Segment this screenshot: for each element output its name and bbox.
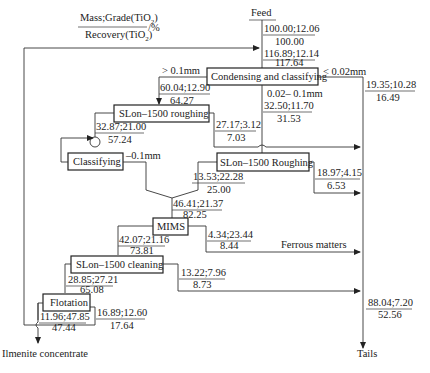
stream-mims-feed: 46.41;21.37 82.25 (172, 198, 223, 220)
stream-coarse: 60.04;12.90 64.27 (159, 82, 210, 106)
svg-text:13.22;7.96: 13.22;7.96 (181, 267, 226, 278)
slon-roughing-1-label: SLon–1500 roughing (119, 108, 209, 119)
tails-label: Tails (357, 348, 377, 359)
svg-text:100.00;12.06: 100.00;12.06 (264, 23, 319, 34)
svg-text:32.87;21.00: 32.87;21.00 (96, 121, 146, 132)
stream-rough2-tail: 18.97;4.15 6.53 (315, 167, 362, 191)
stream-flot-conc: 11.96;47.85 47.44 (39, 311, 90, 333)
svg-text:117.64: 117.64 (275, 57, 304, 68)
svg-text:25.00: 25.00 (207, 184, 231, 195)
stream-rough1-conc: 32.87;21.00 57.24 (95, 121, 146, 145)
svg-text:19.35;10.28: 19.35;10.28 (366, 79, 416, 90)
svg-text:47.44: 47.44 (52, 322, 76, 333)
svg-text:16.49: 16.49 (376, 92, 400, 103)
classifying-label: Classifying (73, 156, 122, 167)
stream-feed: 100.00;12.06 100.00 (263, 23, 319, 47)
stream-rough2-conc: 13.53;22.28 25.00 (192, 171, 245, 195)
svg-text:17.64: 17.64 (110, 320, 134, 331)
flowsheet-diagram: Mass;Grade(TiO2) Recovery(TiO2) /% Feed … (0, 0, 430, 373)
svg-text:65.08: 65.08 (80, 284, 104, 295)
svg-text:8.73: 8.73 (193, 279, 211, 290)
stream-flot-tail: 16.89;12.60 17.64 (96, 307, 147, 331)
size-mid-label: 0.02– 0.1mm (267, 88, 323, 99)
svg-text:32.50;11.70: 32.50;11.70 (264, 100, 314, 111)
flotation-label: Flotation (50, 297, 89, 308)
tails-line (318, 77, 363, 348)
stream-mims-mag: 4.34;23.44 8.44 (207, 229, 254, 251)
feed-label: Feed (251, 7, 272, 18)
svg-text:88.04;7.20: 88.04;7.20 (368, 297, 413, 308)
svg-text:100.00: 100.00 (275, 36, 304, 47)
size-minus-label: –0.1mm (125, 150, 161, 161)
svg-text:6.53: 6.53 (327, 180, 345, 191)
svg-text:46.41;21.37: 46.41;21.37 (173, 198, 223, 209)
pump-icon (90, 137, 100, 147)
svg-text:4.34;23.44: 4.34;23.44 (208, 229, 254, 240)
svg-text:8.44: 8.44 (220, 240, 239, 251)
size-gt-label: > 0.1mm (162, 65, 200, 76)
svg-text:60.04;12.90: 60.04;12.90 (160, 82, 210, 93)
legend-numerator: Mass;Grade(TiO2) (80, 12, 158, 26)
svg-text:7.03: 7.03 (227, 132, 245, 143)
legend: Mass;Grade(TiO2) Recovery(TiO2) /% (78, 12, 160, 43)
svg-text:13.53;22.28: 13.53;22.28 (193, 171, 243, 182)
stream-combined-feed: 116.89;12.14 117.64 (263, 48, 320, 68)
svg-text:73.81: 73.81 (130, 245, 154, 256)
svg-text:27.17;3.12: 27.17;3.12 (216, 119, 261, 130)
condensing-label: Condensing and classifying (211, 71, 328, 82)
svg-text:18.97;4.15: 18.97;4.15 (317, 167, 362, 178)
stream-middle: 32.50;11.70 31.53 (263, 100, 314, 124)
mims-label: MIMS (157, 221, 185, 232)
legend-denominator: Recovery(TiO2) (85, 29, 153, 43)
svg-text:31.53: 31.53 (277, 113, 301, 124)
svg-text:52.56: 52.56 (378, 309, 402, 320)
stream-mims-nonmag: 42.07;21.16 73.81 (118, 234, 169, 256)
stream-slime: 19.35;10.28 16.49 (365, 79, 416, 103)
svg-text:42.07;21.16: 42.07;21.16 (119, 234, 169, 245)
stream-rough1-tail: 27.17;3.12 7.03 (215, 119, 261, 143)
slon-cleaning-label: SLon–1500 cleaning (76, 259, 164, 270)
svg-text:64.27: 64.27 (170, 95, 194, 106)
legend-unit: /% (148, 22, 160, 33)
stream-total-tails: 88.04;7.20 52.56 (366, 297, 413, 320)
stream-clean-tail: 13.22;7.96 8.73 (179, 267, 226, 290)
ilmenite-label: Ilmenite concentrate (2, 348, 88, 359)
svg-text:16.89;12.60: 16.89;12.60 (97, 307, 147, 318)
svg-text:57.24: 57.24 (108, 134, 132, 145)
ferrous-label: Ferrous matters (281, 239, 347, 250)
slon-roughing-2-label: SLon–1500 Roughing (220, 157, 314, 168)
stream-clean-conc: 28.85;27.21 65.08 (66, 274, 118, 295)
size-lt-label: < 0.02mm (323, 66, 366, 77)
svg-text:11.96;47.85: 11.96;47.85 (40, 311, 90, 322)
